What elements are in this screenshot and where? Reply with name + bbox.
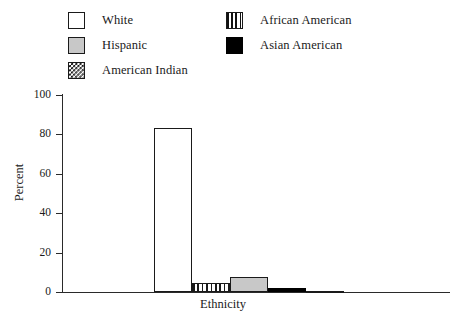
y-axis-label-80: 80	[17, 128, 51, 140]
y-axis-tick-60	[56, 174, 63, 175]
y-axis-tick-100	[56, 95, 63, 96]
y-axis-tick-80	[56, 134, 63, 135]
y-axis-label-100: 100	[17, 89, 51, 101]
bar-hispanic	[230, 277, 268, 292]
y-axis-tick-0	[56, 292, 63, 293]
y-axis-label-20: 20	[17, 247, 51, 259]
bar-white	[154, 128, 192, 292]
bar-american-indian	[306, 291, 344, 293]
y-axis-tick-20	[56, 253, 63, 254]
x-axis-title: Ethnicity	[168, 297, 278, 312]
bar-african-american	[192, 283, 230, 292]
y-axis-label-0: 0	[17, 286, 51, 298]
x-axis-line	[62, 292, 450, 293]
y-axis-line	[62, 94, 63, 293]
y-axis-tick-40	[56, 213, 63, 214]
bar-chart-plot: 0 20 40 60 80 100 Percent Ethnicity	[0, 0, 453, 326]
y-axis-title: Percent	[12, 148, 27, 218]
bar-asian-american	[268, 288, 306, 292]
